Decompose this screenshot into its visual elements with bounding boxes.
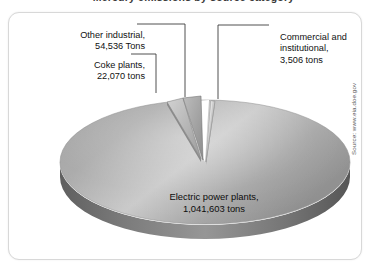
chart-card: Other industrial, 54,536 Tons Coke plant… [8, 12, 362, 260]
label-other-industrial: Other industrial, 54,536 Tons [23, 30, 145, 53]
label-coke-plants: Coke plants, 22,070 tons [31, 60, 145, 83]
label-electric-power-plants: Electric power plants, 1,041,603 tons [131, 191, 297, 215]
leader-line-commercial [218, 25, 269, 99]
pie-chart-stage: Other industrial, 54,536 Tons Coke plant… [9, 13, 361, 259]
source-attribution: Source: www.eia.doe.gov [350, 55, 357, 155]
chart-title-clipped: Mercury emissions by source category [0, 0, 387, 3]
leader-lines [131, 24, 269, 99]
screenshot-root: Mercury emissions by source category [0, 0, 387, 272]
